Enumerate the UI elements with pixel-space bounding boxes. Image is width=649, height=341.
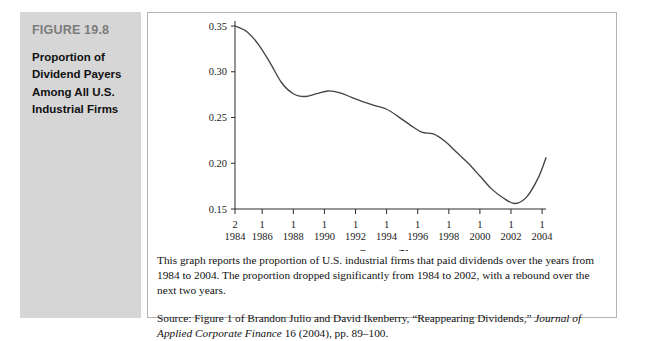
x-axis-quarter-label: 1 <box>477 219 482 230</box>
x-axis-quarter-label: 1 <box>508 219 513 230</box>
x-axis-quarter-label: 2 <box>232 219 237 230</box>
x-axis-year-label: 1988 <box>283 231 304 242</box>
y-axis-tick-label: 0.35 <box>209 21 227 32</box>
y-axis-tick-label: 0.25 <box>209 112 227 123</box>
x-axis-year-label: 1986 <box>252 231 273 242</box>
x-axis-quarter-label: 1 <box>353 219 358 230</box>
figure-title-line-3: Among All U.S. <box>32 84 131 101</box>
y-axis-tick-label: 0.15 <box>209 204 227 215</box>
y-axis-tick-marks <box>231 26 235 209</box>
x-axis-year-label: 2004 <box>532 231 554 242</box>
x-axis-year-label: 1992 <box>345 231 366 242</box>
x-axis-quarter-label: 1 <box>415 219 420 230</box>
figure-title-line-2: Dividend Payers <box>32 66 131 83</box>
x-axis-year-label: 1984 <box>225 231 247 242</box>
x-axis-year-label: 1990 <box>314 231 335 242</box>
figure-source-text: Source: Figure 1 of Brandon Julio and Da… <box>157 311 607 341</box>
x-axis-year-label: 1996 <box>407 231 428 242</box>
figure-notes: This graph reports the proportion of U.S… <box>157 253 607 341</box>
x-axis-year-label: 1994 <box>376 231 398 242</box>
figure-sidebar: FIGURE 19.8 Proportion of Dividend Payer… <box>20 12 141 318</box>
figure-content-box: 0.150.200.250.300.35 2198411986119881199… <box>147 12 617 318</box>
x-axis-year-label: 2002 <box>501 231 522 242</box>
x-axis-title: Quarter/Year <box>359 247 423 251</box>
x-axis-quarter-label: 1 <box>291 219 296 230</box>
x-axis-year-label: 2000 <box>469 231 490 242</box>
figure-title: Proportion of Dividend Payers Among All … <box>32 49 131 119</box>
x-axis-tick-marks <box>235 209 542 214</box>
x-axis-quarter-label: 1 <box>384 219 389 230</box>
x-axis-quarter-label: 1 <box>539 219 544 230</box>
x-axis-year-label: 1998 <box>438 231 459 242</box>
y-axis-tick-labels: 0.150.200.250.300.35 <box>209 21 227 215</box>
x-axis-quarter-label: 1 <box>322 219 327 230</box>
figure-title-line-1: Proportion of <box>32 49 131 66</box>
x-axis-tick-labels: 2198411986119881199011992119941199611998… <box>225 219 554 242</box>
data-series-line <box>235 26 546 204</box>
source-prefix: Source: Figure 1 of Brandon Julio and Da… <box>157 312 534 324</box>
line-chart: 0.150.200.250.300.35 2198411986119881199… <box>148 13 616 251</box>
figure-title-line-4: Industrial Firms <box>32 101 131 118</box>
figure-number-label: FIGURE 19.8 <box>32 24 131 38</box>
x-axis-quarter-label: 1 <box>260 219 265 230</box>
source-suffix: 16 (2004), pp. 89–100. <box>282 327 388 339</box>
figure-note-text: This graph reports the proportion of U.S… <box>157 253 607 298</box>
y-axis-tick-label: 0.30 <box>209 66 227 77</box>
chart-svg: 0.150.200.250.300.35 2198411986119881199… <box>148 13 616 251</box>
y-axis-tick-label: 0.20 <box>209 158 227 169</box>
x-axis-quarter-label: 1 <box>446 219 451 230</box>
